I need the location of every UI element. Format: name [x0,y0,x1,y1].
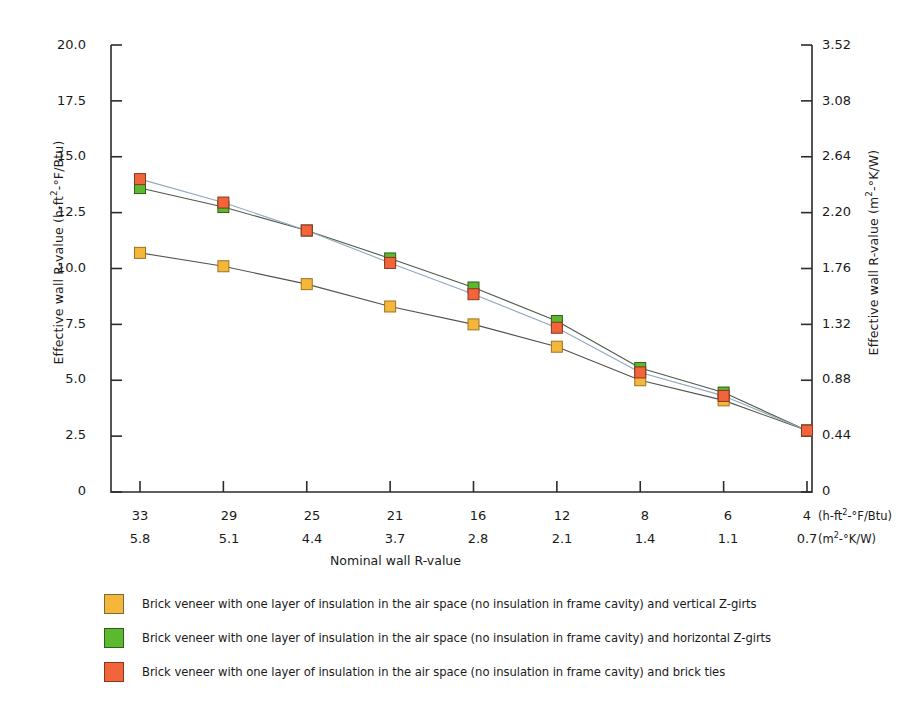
data-point-markers [135,174,813,436]
chart-figure: Effective wall R-value (h-ft2-°F/Btu) Ef… [0,0,915,702]
legend-label-1: Brick veneer with one layer of insulatio… [142,631,771,645]
axis-lines [111,45,812,492]
legend-item-brick-ties[interactable]: Brick veneer with one layer of insulatio… [104,655,904,689]
legend-label-0: Brick veneer with one layer of insulatio… [142,597,757,611]
series-lines [140,179,807,430]
legend-item-horizontal-z-girts[interactable]: Brick veneer with one layer of insulatio… [104,621,904,655]
legend-label-2: Brick veneer with one layer of insulatio… [142,665,725,679]
chart-legend: Brick veneer with one layer of insulatio… [104,587,904,689]
legend-swatch-orange-icon [104,594,124,614]
legend-swatch-red-icon [104,662,124,682]
legend-item-vertical-z-girts[interactable]: Brick veneer with one layer of insulatio… [104,587,904,621]
legend-swatch-green-icon [104,628,124,648]
